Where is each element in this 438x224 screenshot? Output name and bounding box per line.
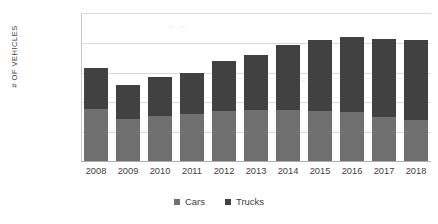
x-axis-tick-label: 2013 [244,166,268,176]
bar-segment-trucks [404,40,428,120]
y-axis-title: # OF VEHICLES [10,0,19,115]
bar-segment-cars [276,110,300,162]
plot-area: -5,000,00010,000,00015,000,00020,000,000… [81,13,431,162]
legend-item[interactable]: Trucks [225,196,264,207]
stacked-bar-chart: # OF VEHICLES ~ ~ ~~~ -5,000,00010,000,0… [0,0,438,224]
chart-legend: CarsTrucks [0,196,438,207]
bar-segment-trucks [84,68,108,109]
bar-segment-cars [372,117,396,162]
bar-segment-cars [116,119,140,163]
x-axis-tick-label: 2017 [372,166,396,176]
bar-column [276,13,300,162]
bar-segment-trucks [244,55,268,110]
bar-segment-trucks [180,73,204,114]
bar-segment-cars [84,109,108,162]
bar-segment-trucks [372,39,396,116]
bar-segment-cars [180,114,204,162]
bar-segment-trucks [276,45,300,109]
bar-column [372,13,396,162]
x-axis-tick-label: 2012 [212,166,236,176]
bar-column [180,13,204,162]
x-axis-tick-label: 2016 [340,166,364,176]
bar-column [148,13,172,162]
bar-segment-trucks [212,61,236,111]
bar-column [116,13,140,162]
bar-segment-trucks [308,40,332,111]
bar-segment-cars [340,112,364,162]
x-axis-tick-label: 2014 [276,166,300,176]
bar-segment-cars [308,111,332,162]
bar-column [212,13,236,162]
x-axis-tick-label: 2015 [308,166,332,176]
bar-segment-cars [404,120,428,162]
bar-column [244,13,268,162]
bar-segment-trucks [340,37,364,112]
x-axis-tick-label: 2018 [404,166,428,176]
bar-segment-trucks [148,77,172,116]
bar-column [340,13,364,162]
x-axis-tick-label: 2009 [116,166,140,176]
x-axis-tick-label: 2011 [180,166,204,176]
legend-swatch-icon [225,199,231,205]
bar-segment-cars [212,111,236,162]
legend-item[interactable]: Cars [174,196,205,207]
bar-column [404,13,428,162]
bar-segment-trucks [116,85,140,118]
bar-column [84,13,108,162]
bar-series-group [81,13,431,162]
legend-label: Cars [185,196,205,207]
bar-segment-cars [244,110,268,162]
x-axis-line [81,161,431,162]
bar-column [308,13,332,162]
bar-segment-cars [148,116,172,162]
legend-swatch-icon [174,199,180,205]
x-axis-tick-labels: 2008200920102011201220132014201520162017… [81,166,431,176]
x-axis-tick-label: 2008 [84,166,108,176]
x-axis-tick-label: 2010 [148,166,172,176]
legend-label: Trucks [236,196,264,207]
